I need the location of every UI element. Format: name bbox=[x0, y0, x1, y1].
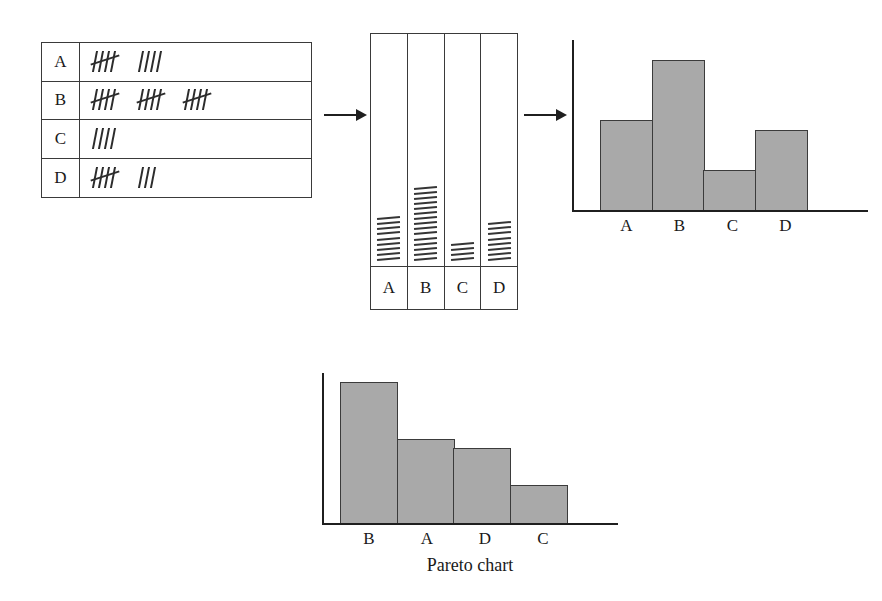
arrow-shaft bbox=[324, 114, 358, 116]
dash-mark bbox=[414, 216, 437, 220]
dash-column bbox=[371, 34, 408, 266]
dash-mark bbox=[488, 237, 511, 241]
dash-column-label: A bbox=[371, 267, 408, 309]
dash-mark bbox=[377, 226, 400, 230]
bar bbox=[510, 485, 568, 523]
histogram-x-axis bbox=[572, 210, 868, 212]
dash-mark bbox=[451, 247, 474, 251]
bar bbox=[600, 120, 653, 210]
dash-mark bbox=[414, 226, 437, 230]
pareto-x-axis bbox=[322, 523, 618, 525]
tally-marks bbox=[80, 43, 311, 81]
dash-mark bbox=[414, 247, 437, 251]
tally-table: ABCD bbox=[41, 42, 312, 198]
bar bbox=[453, 448, 511, 523]
tally-marks bbox=[80, 82, 311, 120]
tally-stroke bbox=[104, 167, 110, 188]
tally-stroke bbox=[138, 167, 144, 188]
tally-stroke bbox=[144, 51, 150, 72]
dash-column-footer: ABCD bbox=[371, 267, 517, 309]
bar bbox=[340, 382, 398, 523]
dash-mark bbox=[488, 221, 511, 225]
dash-mark bbox=[414, 221, 437, 225]
histogram-chart: ABCD bbox=[572, 40, 872, 250]
tally-stroke bbox=[104, 89, 110, 110]
tally-row-label: D bbox=[42, 159, 80, 198]
dash-mark bbox=[377, 216, 400, 220]
dash-column-label: D bbox=[481, 267, 517, 309]
x-tick-label: C bbox=[706, 216, 759, 236]
tally-row: A bbox=[42, 43, 311, 82]
dash-mark bbox=[488, 226, 511, 230]
dash-mark bbox=[488, 252, 511, 256]
dash-mark bbox=[414, 252, 437, 256]
dash-mark bbox=[414, 186, 437, 190]
tally-stroke bbox=[104, 51, 110, 72]
dash-mark bbox=[414, 206, 437, 210]
arrow-head bbox=[356, 109, 367, 121]
tally-stroke bbox=[150, 167, 156, 188]
x-tick-label: C bbox=[514, 529, 572, 549]
tally-marks bbox=[80, 120, 311, 158]
tally-group bbox=[94, 89, 114, 111]
tally-stroke bbox=[138, 51, 144, 72]
dash-mark bbox=[414, 257, 437, 261]
dash-column bbox=[481, 34, 517, 266]
dash-mark bbox=[377, 257, 400, 261]
dash-mark bbox=[414, 242, 437, 246]
dash-column-body bbox=[371, 34, 517, 267]
dash-mark bbox=[488, 247, 511, 251]
bar bbox=[703, 170, 756, 210]
arrow-right-icon bbox=[524, 108, 568, 122]
tally-group bbox=[140, 51, 160, 73]
dash-mark bbox=[451, 257, 474, 261]
dash-mark bbox=[488, 242, 511, 246]
dash-column bbox=[408, 34, 445, 266]
x-tick-label: B bbox=[653, 216, 706, 236]
dash-mark bbox=[414, 237, 437, 241]
dash-mark bbox=[377, 237, 400, 241]
pareto-y-axis bbox=[322, 373, 324, 525]
x-tick-label: B bbox=[340, 529, 398, 549]
tally-stroke bbox=[150, 89, 156, 110]
x-tick-label: D bbox=[759, 216, 812, 236]
dash-mark bbox=[377, 247, 400, 251]
pareto-chart: BADC Pareto chart bbox=[322, 373, 622, 583]
dash-mark bbox=[377, 221, 400, 225]
dash-column bbox=[445, 34, 482, 266]
pareto-x-tick-labels: BADC bbox=[340, 529, 572, 549]
tally-marks bbox=[80, 159, 311, 198]
dash-mark bbox=[377, 252, 400, 256]
tally-stroke bbox=[110, 51, 116, 72]
tally-group bbox=[94, 51, 114, 73]
tally-group bbox=[140, 89, 160, 111]
pareto-bars bbox=[340, 373, 566, 523]
bar bbox=[755, 130, 808, 210]
tally-stroke bbox=[110, 167, 116, 188]
figure-canvas: ABCD ABCD ABCD BADC Pareto chart bbox=[0, 0, 882, 601]
dash-mark bbox=[377, 242, 400, 246]
histogram-y-axis bbox=[572, 40, 574, 212]
arrow-right-icon bbox=[324, 108, 368, 122]
tally-row: B bbox=[42, 82, 311, 121]
tally-group bbox=[94, 167, 114, 189]
histogram-x-tick-labels: ABCD bbox=[600, 216, 812, 236]
dash-column-label: B bbox=[408, 267, 445, 309]
arrow-shaft bbox=[524, 114, 558, 116]
tally-stroke bbox=[104, 128, 110, 149]
histogram-bars bbox=[600, 50, 806, 210]
dash-mark bbox=[377, 231, 400, 235]
tally-row: C bbox=[42, 120, 311, 159]
dash-column-label: C bbox=[445, 267, 482, 309]
dash-column-diagram: ABCD bbox=[370, 33, 518, 310]
arrow-head bbox=[556, 109, 567, 121]
tally-group bbox=[94, 128, 114, 150]
dash-mark bbox=[488, 231, 511, 235]
tally-stroke bbox=[92, 128, 98, 149]
tally-stroke bbox=[196, 89, 202, 110]
tally-stroke bbox=[156, 51, 162, 72]
tally-row: D bbox=[42, 159, 311, 198]
bar bbox=[397, 439, 455, 523]
dash-mark bbox=[414, 201, 437, 205]
tally-stroke bbox=[150, 51, 156, 72]
